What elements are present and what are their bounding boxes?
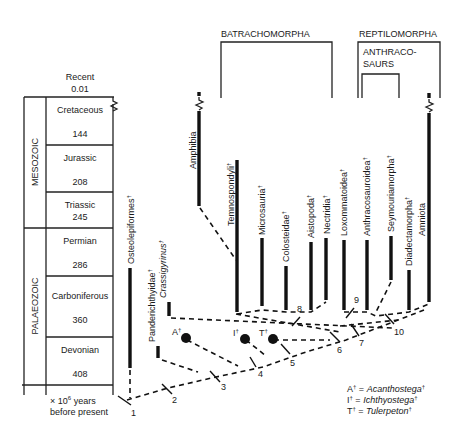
time-break-icon [111, 97, 117, 111]
anthracosaurs-bracket [362, 74, 399, 98]
node-number: 3 [221, 382, 226, 392]
period-name: Jurassic [63, 153, 97, 163]
node-number: 10 [394, 327, 404, 337]
node-number: 4 [258, 369, 263, 379]
legend-item-tulerpeton: T† = Tulerpeton† [347, 406, 412, 416]
geologic-timescale: Recent 0.01 MESOZOIC PALAEOZOIC Cretaceo… [22, 72, 117, 417]
taxon-label-panderichthyidae: Panderichthyidae† [147, 269, 157, 342]
node-tick [330, 332, 340, 342]
taxon-label-anthracosauroidea: Anthracosauroidea† [362, 157, 372, 236]
fossil-label-acanthostega: A† [172, 327, 181, 337]
taxon-label-microsauria: Microsauria† [257, 185, 267, 235]
node-number: 1 [131, 408, 136, 418]
time-break-icon [426, 99, 433, 112]
period-name: Triassic [65, 200, 96, 210]
period-value: 286 [72, 260, 87, 270]
node-number: 6 [337, 345, 342, 355]
group-brackets: BATRACHOMORPHA REPTILOMORPHA ANTHRACO- S… [221, 29, 440, 98]
fossil-label-tulerpeton: T† [259, 328, 268, 338]
period-name: Devonian [61, 345, 99, 355]
legend: A† = Acanthostega† I† = Ichthyostega† T†… [347, 384, 425, 416]
fossil-dot-acanthostega [181, 333, 191, 343]
fossil-points: A† I† T† [172, 327, 278, 344]
tetrapod-phylogeny-diagram: Recent 0.01 MESOZOIC PALAEOZOIC Cretaceo… [0, 0, 463, 448]
recent-label: Recent [66, 72, 95, 82]
group-batrachomorpha: BATRACHOMORPHA [221, 29, 310, 39]
fossil-label-ichthyostega: I† [233, 328, 239, 338]
group-reptilomorpha: REPTILOMORPHA [359, 29, 437, 39]
lineage-acanthostega [187, 340, 238, 366]
taxon-label-diadectamorpha: Diadectamorpha† [404, 197, 414, 266]
time-break-icon [196, 97, 203, 110]
period-name: Permian [63, 236, 97, 246]
units-label: × 106 years [50, 395, 96, 406]
node-number: 2 [172, 395, 177, 405]
lineage-seymouriamorpha [376, 282, 391, 312]
period-name: Carboniferous [52, 291, 109, 301]
era-mesozoic: MESOZOIC [30, 138, 40, 187]
taxon-label-temnospondyli: Temnospondyli† [226, 163, 236, 226]
node-number: 5 [290, 358, 295, 368]
legend-item-acanthostega: A† = Acanthostega† [347, 384, 425, 394]
batrachomorpha-bracket [221, 42, 332, 98]
node-tick [346, 308, 354, 318]
recent-value: 0.01 [71, 84, 89, 94]
period-value: 144 [72, 129, 87, 139]
node-tick [281, 344, 290, 354]
taxon-label-aistopoda: Aistopoda† [306, 195, 316, 238]
period-value: 360 [72, 315, 87, 325]
node-number: 9 [354, 295, 359, 305]
fossil-dot-ichthyostega [240, 334, 250, 344]
lineage-crassigyrinus [171, 318, 392, 328]
era-palaeozoic: PALAEOZOIC [30, 277, 40, 334]
period-name: Cretaceous [57, 105, 104, 115]
taxon-label-colosteidae: Colosteidae† [281, 211, 291, 262]
taxon-label-amphibia: Amphibia [188, 131, 198, 169]
legend-item-ichthyostega: I† = Ichthyostega† [347, 395, 418, 405]
node-number: 8 [297, 304, 302, 314]
taxon-label-amniota: Amniota [417, 203, 427, 236]
node-tick [250, 357, 256, 367]
period-value: 245 [72, 212, 87, 222]
taxon-label-nectridia: Nectridia† [322, 195, 332, 234]
period-value: 208 [72, 177, 87, 187]
lineage-reptilomorph-base [344, 304, 429, 316]
node-number: 7 [359, 338, 364, 348]
taxon-label-crassigyrinus: Crassigyrinus† [158, 239, 168, 298]
node-tick [118, 396, 131, 405]
taxon-label-seymouriamorpha: Seymouriamorpha† [386, 155, 396, 232]
fossil-dot-tulerpeton [268, 334, 278, 344]
units-label-line2: before present [50, 407, 109, 417]
lineage-panderichthyidae [162, 360, 198, 372]
taxon-label-loxommatoidea: Loxommatoidea† [339, 169, 349, 236]
group-anthracosaurs: ANTHRACO- [363, 47, 417, 57]
lineage-lines [127, 208, 429, 400]
period-value: 408 [72, 369, 87, 379]
group-anthracosaurs-line2: SAURS [363, 59, 394, 69]
taxon-label-osteolepiformes: Osteolepiformes† [126, 195, 136, 264]
lineage-ichthyostega [246, 340, 266, 356]
